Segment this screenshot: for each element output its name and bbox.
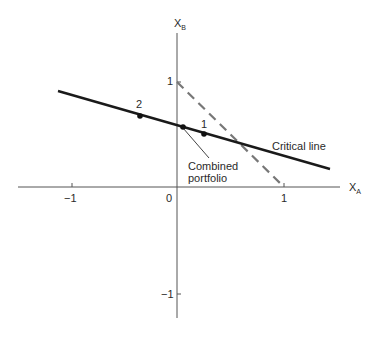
point-1 (201, 131, 207, 137)
combined-portfolio-label-1: Combined (188, 160, 238, 172)
point-2 (137, 113, 143, 119)
origin-label: 0 (166, 192, 172, 204)
x-tick-1-label: 1 (281, 192, 287, 204)
y-tick-1-label: 1 (167, 75, 173, 87)
point-1-label: 1 (201, 118, 207, 130)
point-2-label: 2 (136, 98, 142, 110)
y-tick-neg1-label: −1 (161, 288, 174, 300)
x-tick-neg1-label: −1 (64, 192, 77, 204)
critical-line-diagram: XB XA 0 −1 1 1 −1 2 1 Critical line Comb… (0, 0, 381, 337)
point-combined (180, 124, 186, 130)
x-axis-label: XA (349, 181, 361, 195)
y-axis-label: XB (174, 17, 186, 31)
combined-portfolio-label-2: portfolio (188, 172, 227, 184)
critical-line (58, 91, 330, 169)
critical-line-label: Critical line (272, 140, 326, 152)
